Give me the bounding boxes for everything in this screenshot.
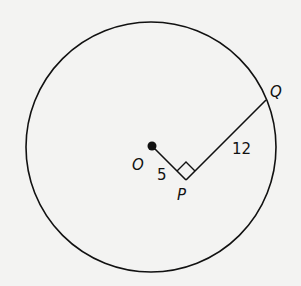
center-point-o: [148, 142, 157, 151]
label-p: P: [177, 186, 187, 204]
label-op-length: 5: [157, 166, 167, 184]
label-q: Q: [270, 83, 282, 101]
right-angle-marker: [177, 162, 195, 171]
label-o: O: [132, 156, 144, 174]
circle-diagram: O 5 P 12 Q: [0, 0, 301, 286]
segment-pq: [186, 100, 266, 180]
diagram-canvas: O 5 P 12 Q: [0, 0, 301, 286]
label-pq-length: 12: [232, 140, 251, 158]
